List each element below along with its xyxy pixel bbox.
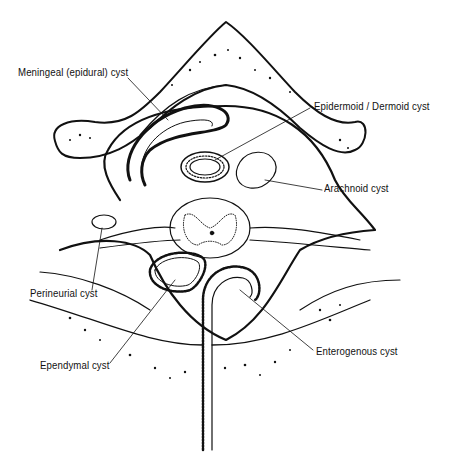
label-ependymal-cyst: Ependymal cyst bbox=[40, 359, 109, 371]
label-perineurial-cyst: Perineurial cyst bbox=[30, 287, 98, 299]
label-epidermoid-cyst: Epidermoid / Dermoid cyst bbox=[314, 100, 430, 112]
meningeal-cyst-wall bbox=[128, 105, 228, 185]
label-arachnoid-cyst: Arachnoid cyst bbox=[324, 182, 389, 194]
perineurial-cyst bbox=[92, 215, 116, 229]
spinal-cyst-diagram: Meningeal (epidural) cyst Epidermoid / D… bbox=[0, 0, 451, 458]
label-enterogenous-cyst: Enterogenous cyst bbox=[316, 345, 398, 357]
label-meningeal-cyst: Meningeal (epidural) cyst bbox=[18, 66, 128, 78]
vertebral-arch bbox=[54, 22, 365, 158]
arachnoid-cyst bbox=[236, 152, 276, 188]
bone-stipple bbox=[69, 49, 349, 379]
